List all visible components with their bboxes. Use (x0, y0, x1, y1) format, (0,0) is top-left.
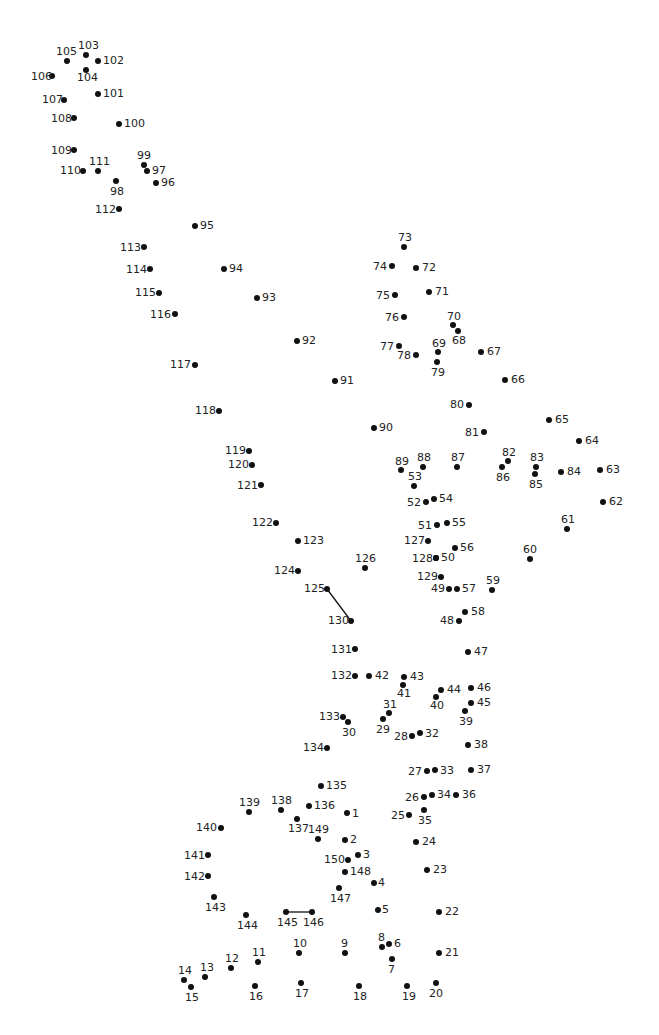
dot-47[interactable] (465, 649, 471, 655)
dot-4[interactable] (371, 880, 377, 886)
dot-94[interactable] (221, 266, 227, 272)
dot-25[interactable] (406, 812, 412, 818)
dot-8[interactable] (379, 944, 385, 950)
dot-118[interactable] (216, 408, 222, 414)
dot-116[interactable] (172, 311, 178, 317)
dot-86[interactable] (499, 464, 505, 470)
dot-131[interactable] (352, 646, 358, 652)
dot-22[interactable] (436, 909, 442, 915)
dot-136[interactable] (306, 803, 312, 809)
dot-53[interactable] (411, 483, 417, 489)
dot-80[interactable] (466, 402, 472, 408)
dot-51[interactable] (434, 522, 440, 528)
dot-75[interactable] (392, 292, 398, 298)
dot-81[interactable] (481, 429, 487, 435)
dot-149[interactable] (315, 836, 321, 842)
dot-49[interactable] (446, 586, 452, 592)
dot-144[interactable] (243, 912, 249, 918)
dot-84[interactable] (558, 469, 564, 475)
dot-114[interactable] (147, 266, 153, 272)
dot-12[interactable] (228, 965, 234, 971)
dot-58[interactable] (462, 609, 468, 615)
dot-91[interactable] (332, 378, 338, 384)
dot-85[interactable] (532, 471, 538, 477)
dot-66[interactable] (502, 377, 508, 383)
dot-2[interactable] (342, 837, 348, 843)
dot-141[interactable] (205, 852, 211, 858)
dot-34[interactable] (429, 792, 435, 798)
dot-138[interactable] (278, 807, 284, 813)
dot-39[interactable] (462, 708, 468, 714)
dot-56[interactable] (452, 545, 458, 551)
dot-128[interactable] (433, 555, 439, 561)
dot-121[interactable] (258, 482, 264, 488)
dot-119[interactable] (246, 448, 252, 454)
dot-71[interactable] (426, 289, 432, 295)
dot-14[interactable] (181, 977, 187, 983)
dot-145[interactable] (283, 909, 289, 915)
dot-26[interactable] (421, 794, 427, 800)
dot-67[interactable] (478, 349, 484, 355)
dot-78[interactable] (413, 352, 419, 358)
dot-35[interactable] (421, 807, 427, 813)
dot-30[interactable] (345, 719, 351, 725)
dot-103[interactable] (83, 52, 89, 58)
dot-96[interactable] (153, 180, 159, 186)
dot-73[interactable] (401, 244, 407, 250)
dot-147[interactable] (336, 885, 342, 891)
dot-142[interactable] (205, 873, 211, 879)
dot-74[interactable] (389, 263, 395, 269)
dot-10[interactable] (296, 950, 302, 956)
dot-132[interactable] (352, 673, 358, 679)
dot-139[interactable] (246, 809, 252, 815)
dot-23[interactable] (424, 867, 430, 873)
dot-124[interactable] (295, 568, 301, 574)
dot-117[interactable] (192, 362, 198, 368)
dot-59[interactable] (489, 587, 495, 593)
dot-79[interactable] (434, 359, 440, 365)
dot-150[interactable] (345, 857, 351, 863)
dot-63[interactable] (597, 467, 603, 473)
dot-99[interactable] (141, 162, 147, 168)
dot-143[interactable] (211, 894, 217, 900)
dot-27[interactable] (424, 768, 430, 774)
dot-111[interactable] (95, 168, 101, 174)
dot-62[interactable] (600, 499, 606, 505)
dot-97[interactable] (144, 168, 150, 174)
dot-28[interactable] (409, 733, 415, 739)
dot-24[interactable] (413, 839, 419, 845)
dot-55[interactable] (444, 520, 450, 526)
dot-129[interactable] (438, 574, 444, 580)
dot-21[interactable] (436, 950, 442, 956)
dot-98[interactable] (113, 178, 119, 184)
dot-88[interactable] (420, 464, 426, 470)
dot-38[interactable] (465, 742, 471, 748)
dot-135[interactable] (318, 783, 324, 789)
dot-148[interactable] (342, 869, 348, 875)
dot-120[interactable] (249, 462, 255, 468)
dot-6[interactable] (386, 941, 392, 947)
dot-64[interactable] (576, 438, 582, 444)
dot-140[interactable] (218, 825, 224, 831)
dot-60[interactable] (527, 556, 533, 562)
dot-52[interactable] (423, 499, 429, 505)
dot-19[interactable] (404, 983, 410, 989)
dot-7[interactable] (389, 956, 395, 962)
dot-37[interactable] (468, 767, 474, 773)
dot-54[interactable] (431, 496, 437, 502)
dot-61[interactable] (564, 526, 570, 532)
dot-90[interactable] (371, 425, 377, 431)
dot-102[interactable] (95, 58, 101, 64)
dot-123[interactable] (295, 538, 301, 544)
dot-126[interactable] (362, 565, 368, 571)
dot-46[interactable] (468, 685, 474, 691)
dot-13[interactable] (202, 974, 208, 980)
dot-105[interactable] (64, 58, 70, 64)
dot-92[interactable] (294, 338, 300, 344)
dot-72[interactable] (413, 265, 419, 271)
dot-100[interactable] (116, 121, 122, 127)
dot-57[interactable] (454, 586, 460, 592)
dot-18[interactable] (356, 983, 362, 989)
dot-5[interactable] (375, 907, 381, 913)
dot-101[interactable] (95, 91, 101, 97)
